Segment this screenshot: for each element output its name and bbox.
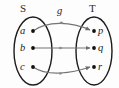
element-label-c: c [20,62,25,73]
arrow-c-to-r [33,67,90,73]
element-label-a: a [20,26,25,37]
element-label-r: r [98,62,102,73]
element-dot-a [31,29,35,33]
function-label-g: g [57,6,62,17]
element-dot-p [92,29,96,33]
element-dot-c [31,65,35,69]
element-dot-b [31,46,35,50]
element-dot-r [92,65,96,69]
element-label-p: p [98,26,103,37]
element-dot-q [92,46,96,50]
element-label-b: b [20,43,25,54]
arrow-a-to-p [33,23,90,31]
set-label-s: S [20,3,26,14]
set-label-t: T [89,3,96,14]
mapping-diagram-figure: S T g a b c p q r [0,0,119,88]
element-label-q: q [98,43,103,54]
